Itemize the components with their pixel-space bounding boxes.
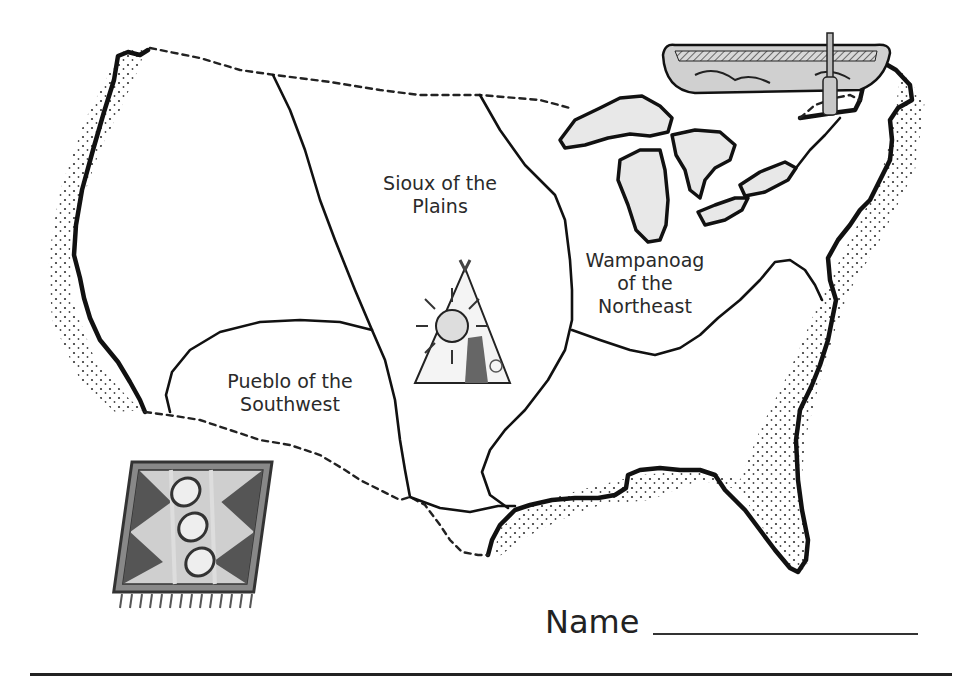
canoe-icon (663, 33, 890, 115)
region-label-pueblo-line2: Southwest (205, 393, 375, 416)
region-label-wampanoag-line2: of the (575, 272, 715, 295)
bottom-divider (30, 673, 952, 676)
region-label-wampanoag-line3: Northeast (575, 295, 715, 318)
region-label-sioux-line1: Sioux of the (355, 172, 525, 195)
region-label-pueblo-line1: Pueblo of the (205, 370, 375, 393)
region-label-sioux-line2: Plains (355, 195, 525, 218)
name-field: Name (545, 603, 918, 641)
woven-rug-icon (114, 462, 272, 608)
region-label-sioux: Sioux of the Plains (355, 172, 525, 218)
region-label-pueblo: Pueblo of the Southwest (205, 370, 375, 416)
name-label: Name (545, 603, 639, 641)
us-map (0, 0, 960, 686)
name-blank-line[interactable] (653, 633, 918, 635)
tipi-icon (415, 260, 510, 383)
region-label-wampanoag-line1: Wampanoag (575, 249, 715, 272)
region-label-wampanoag: Wampanoag of the Northeast (575, 249, 715, 318)
